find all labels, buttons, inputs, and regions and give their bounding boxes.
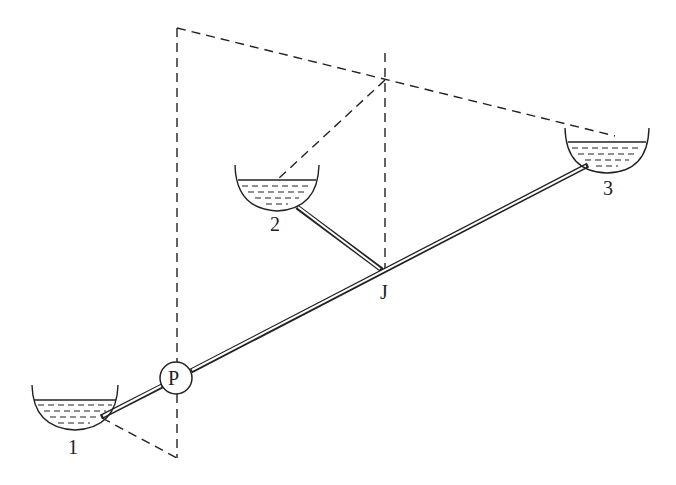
reservoir-2-label: 2 (270, 214, 280, 234)
junction-label: J (380, 282, 388, 302)
hgl-reservoir-1-to-pump (102, 418, 177, 458)
hgl-top-line (177, 28, 615, 136)
reservoir-1-label: 1 (68, 437, 78, 457)
reservoir-3 (565, 128, 649, 173)
pump-label: P (168, 368, 179, 388)
hgl-to-reservoir-2 (277, 80, 385, 180)
reservoir-2 (235, 165, 319, 211)
diagram-svg (0, 0, 676, 485)
reservoir-1 (32, 385, 118, 430)
pipe-network-diagram: 1 2 3 P J (0, 0, 676, 485)
reservoir-3-label: 3 (603, 178, 613, 198)
